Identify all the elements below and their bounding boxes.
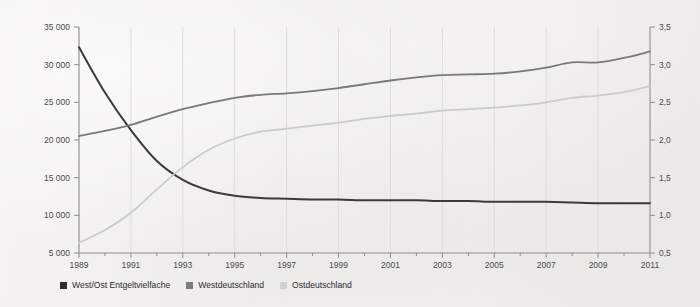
series-lines bbox=[79, 47, 650, 242]
x-tick-label: 1999 bbox=[329, 260, 348, 270]
right-axis-tick-label: 2,0 bbox=[659, 135, 671, 145]
x-tick-label: 1991 bbox=[121, 260, 140, 270]
chart-container: 1989199119931995199719992001200320052007… bbox=[0, 0, 700, 307]
right-axis-tick-label: 1,0 bbox=[659, 210, 671, 220]
right-axis-tick-label: 1,5 bbox=[659, 173, 671, 183]
legend-swatch-icon bbox=[280, 282, 287, 289]
x-tick-label: 2009 bbox=[589, 260, 608, 270]
left-axis-tick-label: 25 000 bbox=[44, 97, 70, 107]
legend-swatch-icon bbox=[60, 282, 67, 289]
left-axis-tick-label: 15 000 bbox=[44, 173, 70, 183]
chart-legend: West/Ost EntgeltvielfacheWestdeutschland… bbox=[60, 281, 352, 290]
left-axis-tick-label: 5 000 bbox=[49, 248, 71, 258]
line-chart: 1989199119931995199719992001200320052007… bbox=[0, 0, 700, 307]
legend-label: Westdeutschland bbox=[198, 281, 264, 290]
legend-swatch-icon bbox=[186, 282, 193, 289]
legend-label: West/Ost Entgeltvielfache bbox=[72, 281, 170, 290]
legend-item[interactable]: Westdeutschland bbox=[186, 281, 264, 290]
legend-item[interactable]: Ostdeutschland bbox=[280, 281, 352, 290]
x-tick-label: 2003 bbox=[433, 260, 452, 270]
left-axis-tick-label: 30 000 bbox=[44, 60, 70, 70]
right-axis-tick-label: 2,5 bbox=[659, 97, 671, 107]
series-line bbox=[79, 47, 650, 203]
x-tick-label: 2011 bbox=[641, 260, 660, 270]
series-line bbox=[79, 51, 650, 136]
x-tick-label: 1993 bbox=[173, 260, 192, 270]
legend-item[interactable]: West/Ost Entgeltvielfache bbox=[60, 281, 170, 290]
right-axis-tick-label: 3,5 bbox=[659, 22, 671, 32]
gridlines bbox=[79, 27, 650, 253]
x-tick-label: 1989 bbox=[70, 260, 89, 270]
left-axis: 5 00010 00015 00020 00025 00030 00035 00… bbox=[44, 22, 79, 258]
x-tick-label: 2007 bbox=[537, 260, 556, 270]
left-axis-tick-label: 20 000 bbox=[44, 135, 70, 145]
right-axis: 0,51,01,52,02,53,03,5 bbox=[650, 22, 671, 258]
left-axis-tick-label: 35 000 bbox=[44, 22, 70, 32]
x-tick-label: 1995 bbox=[225, 260, 244, 270]
x-tick-label: 2005 bbox=[485, 260, 504, 270]
right-axis-tick-label: 3,0 bbox=[659, 60, 671, 70]
x-tick-label: 2001 bbox=[381, 260, 400, 270]
right-axis-tick-label: 0,5 bbox=[659, 248, 671, 258]
x-tick-label: 1997 bbox=[277, 260, 296, 270]
legend-label: Ostdeutschland bbox=[292, 281, 352, 290]
left-axis-tick-label: 10 000 bbox=[44, 210, 70, 220]
x-axis-ticks: 1989199119931995199719992001200320052007… bbox=[70, 253, 660, 270]
series-line bbox=[79, 86, 650, 243]
